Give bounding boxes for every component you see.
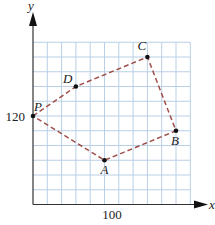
point-labels: PDCBA <box>33 38 179 177</box>
point-label-p: P <box>33 99 42 114</box>
point-c <box>145 55 150 60</box>
x-tick-label: 100 <box>102 207 122 222</box>
grid <box>33 42 190 204</box>
coordinate-diagram: y x 100 120 PDCBA <box>0 0 215 225</box>
y-axis-arrow-icon <box>29 12 37 26</box>
point-label-c: C <box>137 38 146 53</box>
point-p <box>31 114 36 119</box>
y-axis-label: y <box>26 0 34 13</box>
point-d <box>74 84 79 89</box>
point-label-d: D <box>62 71 73 86</box>
point-label-b: B <box>171 133 179 148</box>
x-axis-label: x <box>208 197 215 212</box>
y-tick-label: 120 <box>6 109 26 124</box>
x-axis-arrow-icon <box>194 201 208 209</box>
point-label-a: A <box>100 162 109 177</box>
